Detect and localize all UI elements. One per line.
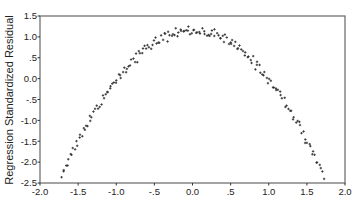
y-tick-label: -2.5: [21, 177, 37, 188]
x-tick-label: -1.0: [108, 186, 124, 197]
y-axis: 1.51.0.50.0-.5-1.0-1.5-2.0-2.5: [21, 10, 40, 188]
x-tick-label: 2.0: [338, 186, 351, 197]
y-axis-title: Regression Standardized Residual: [3, 15, 15, 184]
y-tick-label: .5: [29, 52, 37, 63]
plot-frame: [40, 16, 345, 183]
plot-area: [40, 16, 345, 183]
x-tick-label: 0.0: [186, 186, 199, 197]
y-tick-label: -.5: [26, 94, 37, 105]
x-tick-label: 1.5: [300, 186, 313, 197]
x-tick-label: -1.5: [70, 186, 86, 197]
y-tick-label: 0.0: [24, 73, 37, 84]
x-tick-label: .5: [227, 186, 235, 197]
x-axis: -2.0-1.5-1.0-.50.0.51.01.52.0: [32, 183, 352, 197]
y-tick-label: 1.5: [24, 10, 37, 21]
y-tick-label: -1.0: [21, 115, 37, 126]
y-tick-label: -2.0: [21, 156, 37, 167]
y-tick-label: -1.5: [21, 136, 37, 147]
x-tick-label: -.5: [149, 186, 160, 197]
scatter-chart: -2.0-1.5-1.0-.50.0.51.01.52.0 1.51.0.50.…: [0, 0, 359, 205]
y-tick-label: 1.0: [24, 31, 37, 42]
x-tick-label: 1.0: [262, 186, 275, 197]
